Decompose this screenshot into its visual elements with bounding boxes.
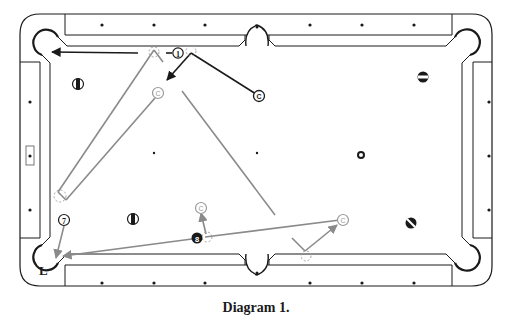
svg-text:C: C <box>155 90 160 97</box>
cushion-bottom-left <box>58 254 245 265</box>
svg-text:7: 7 <box>62 217 66 226</box>
svg-text:1: 1 <box>176 50 180 59</box>
svg-text:C: C <box>198 205 203 212</box>
cushion-left <box>42 55 50 245</box>
svg-text:C: C <box>256 93 261 100</box>
table-border <box>20 14 492 286</box>
cushion-right <box>462 55 470 245</box>
svg-text:C: C <box>340 217 345 224</box>
cue-ball-start: C <box>254 91 265 102</box>
diagram-caption: Diagram 1. <box>0 300 512 316</box>
cushion-top-left <box>58 35 245 46</box>
secondary-paths <box>56 50 340 258</box>
cue-ball-position-2: C <box>153 88 164 99</box>
pocket-label-L: L <box>39 263 48 278</box>
pocket-top-side-mark <box>256 26 259 29</box>
pocket-top-left <box>33 30 58 55</box>
pocket-top-right <box>455 29 480 55</box>
ball-stripe-right-top <box>418 72 429 83</box>
ball-8: 8 <box>192 233 203 244</box>
ball-stripe-left-bottom <box>128 214 139 225</box>
foot-spot <box>358 152 364 158</box>
pocket-bottom-side-mark <box>256 272 259 275</box>
diamonds <box>28 23 490 284</box>
pocket-bottom-right <box>455 245 480 271</box>
pool-table-diagram: L <box>0 0 512 300</box>
table-outer-rail <box>40 14 493 113</box>
cushion-bottom-right <box>269 254 455 265</box>
cue-ball-position-3: C <box>196 203 207 214</box>
ball-7: 7 <box>59 215 70 226</box>
cushion-top-right <box>269 35 455 46</box>
ball-stripe-right-bottom <box>406 218 417 229</box>
svg-text:8: 8 <box>195 235 199 244</box>
ball-stripe-left-top <box>73 79 84 90</box>
ball-1: 1 <box>173 48 183 59</box>
cue-ball-position-4: C <box>338 215 349 226</box>
